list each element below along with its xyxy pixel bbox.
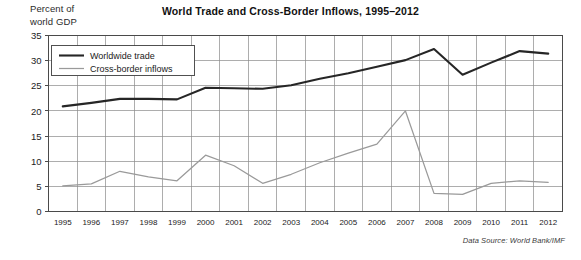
x-tick-label: 1999 [168,218,186,227]
legend-label-1: Worldwide trade [90,51,155,61]
x-tick-label: 2006 [368,218,386,227]
x-tick-label: 1998 [140,218,158,227]
y-tick-label: 30 [31,55,42,66]
x-tick-label: 2005 [339,218,357,227]
y-tick-label: 25 [31,80,42,91]
source-note: Data Source: World Bank/IMF [463,236,565,245]
y-tick-label: 15 [31,131,42,142]
y-tick-label: 10 [31,156,42,167]
x-tick-label: 2000 [197,218,215,227]
y-tick-labels: 05101520253035 [31,30,49,217]
x-tick-label: 2004 [311,218,329,227]
x-tick-label: 2008 [425,218,443,227]
x-tick-label: 1996 [82,218,100,227]
x-tick-label: 2010 [482,218,500,227]
x-tick-label: 1997 [111,218,129,227]
legend-label-2: Cross-border inflows [90,64,173,74]
x-tick-label: 2011 [511,218,529,227]
x-tick-label: 2012 [539,218,557,227]
chart-figure: World Trade and Cross-Border Inflows, 19… [0,0,581,260]
y-tick-label: 20 [31,106,42,117]
x-tick-label: 2003 [282,218,300,227]
chart-legend: Worldwide tradeCross-border inflows [52,46,195,76]
x-tick-labels: 1995199619971998199920002001200220032004… [54,218,558,227]
y-tick-label: 5 [36,181,41,192]
y-tick-label: 0 [36,206,41,217]
plot-area: 05101520253035 1995199619971998199920002… [0,0,581,260]
x-tick-label: 2007 [397,218,415,227]
x-tick-label: 2001 [225,218,243,227]
y-tick-label: 35 [31,30,42,41]
x-tick-label: 2009 [454,218,472,227]
x-tick-label: 1995 [54,218,72,227]
x-tick-label: 2002 [254,218,272,227]
